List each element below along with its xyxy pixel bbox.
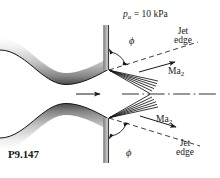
figure-p9147: pa = 10 kPa Jet edge Jet edge Ma2 Ma2 ϕ …: [0, 0, 220, 178]
mach-label-lower: Ma2: [156, 115, 172, 126]
jet-edge-line-upper: [109, 42, 198, 70]
mach-lower-symbol: Ma: [156, 114, 169, 124]
jet-edge-label-top: Jet edge: [174, 27, 192, 46]
mach-lower-subscript: 2: [169, 118, 173, 126]
nozzle-body-lower: [0, 104, 108, 151]
angle-arc-upper: [109, 48, 129, 65]
angle-label-upper: ϕ: [129, 35, 134, 46]
figure-tag: P9.147: [8, 149, 39, 161]
ambient-pressure-label: pa = 10 kPa: [123, 10, 168, 21]
pressure-subscript: a: [128, 13, 132, 21]
jet-edge-top-line2: edge: [174, 36, 192, 46]
jet-edge-label-bottom: Jet edge: [176, 139, 194, 158]
nozzle-body-upper: [0, 26, 108, 85]
jet-edge-bottom-line2: edge: [176, 148, 194, 158]
mach-upper-subscript: 2: [181, 70, 185, 78]
mach-upper-symbol: Ma: [168, 66, 181, 76]
exit-plane-wall-upper: [104, 25, 111, 70]
angle-label-lower: ϕ: [126, 147, 131, 158]
pressure-value: = 10 kPa: [134, 9, 168, 19]
expansion-fan-lower: [109, 94, 158, 117]
mach-label-upper: Ma2: [168, 67, 184, 78]
angle-arc-lower: [109, 123, 130, 140]
expansion-fan-upper: [109, 70, 158, 93]
exit-plane-wall-lower: [104, 118, 111, 163]
